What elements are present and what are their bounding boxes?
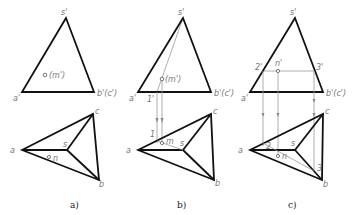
caption-b: b) — [177, 200, 186, 210]
label-m-prime: (m') — [49, 71, 65, 80]
edge-sc — [183, 114, 211, 150]
panel-b-top-view: a c s m 1 b — [126, 107, 220, 188]
label-s-prime: s' — [290, 8, 296, 17]
label-n: n — [282, 152, 287, 161]
label-s: s — [291, 139, 295, 148]
label-3: 3 — [317, 164, 322, 173]
label-b-prime-c-prime: b'(c') — [214, 89, 234, 98]
edge-sc — [295, 114, 323, 150]
arrow-down-icon — [313, 99, 316, 103]
front-view-triangle — [250, 18, 323, 92]
pyramid-projection-diagram: s' a' b'(c') (m') a c s n b a) s' a' b'(… — [0, 0, 355, 215]
label-3-prime: 3' — [316, 63, 323, 72]
label-a: a — [10, 146, 15, 155]
label-c: c — [95, 107, 100, 116]
arrow-down-icon — [161, 118, 164, 123]
label-a-prime: a' — [241, 94, 248, 103]
panel-b-front-view: s' a' b'(c') (m') 1' — [129, 8, 234, 104]
point-n-prime-marker — [276, 69, 279, 72]
edge-sb — [67, 150, 99, 180]
label-a: a — [238, 146, 243, 155]
front-view-triangle — [22, 18, 94, 92]
label-s-prime: s' — [61, 8, 67, 17]
panel-b-projectors — [156, 81, 164, 143]
panel-c-top-view: a c s n 2 3 b — [238, 107, 330, 189]
caption-c: c) — [288, 200, 297, 210]
label-1-prime: 1' — [147, 95, 154, 104]
arrow-down-icon — [277, 113, 280, 117]
label-b: b — [215, 179, 220, 188]
label-2-prime: 2' — [255, 63, 262, 72]
label-a-prime: a' — [129, 94, 136, 103]
panel-b: s' a' b'(c') (m') 1' a c s m 1 b b) — [126, 8, 234, 210]
panel-c: s' a' b'(c') n' 2' 3' a c s n — [238, 8, 346, 210]
point-m-prime-marker — [160, 77, 164, 81]
caption-a: a) — [70, 200, 79, 210]
edge-sb — [183, 150, 214, 180]
label-n: n — [53, 154, 58, 163]
panel-a-front-view: s' a' b'(c') (m') — [13, 8, 117, 103]
label-b: b — [99, 180, 104, 189]
arrow-down-icon — [313, 113, 316, 117]
label-s-prime: s' — [178, 8, 184, 17]
label-b-prime-c-prime: b'(c') — [97, 89, 117, 98]
label-a: a — [126, 146, 131, 155]
label-s: s — [63, 140, 67, 149]
panel-a: s' a' b'(c') (m') a c s n b a) — [10, 8, 117, 210]
arrow-down-icon — [156, 118, 159, 123]
label-2: 2 — [266, 142, 271, 151]
point-n-marker — [47, 155, 50, 158]
label-n-prime: n' — [275, 59, 282, 68]
label-s: s — [180, 139, 184, 148]
panel-c-front-view: s' a' b'(c') n' 2' 3' — [241, 8, 346, 103]
label-c: c — [213, 107, 218, 116]
label-b-prime-c-prime: b'(c') — [326, 89, 346, 98]
label-b: b — [323, 180, 328, 189]
point-m-prime-marker — [43, 73, 47, 77]
point-m-marker — [160, 141, 163, 144]
edge-sc — [67, 114, 93, 150]
label-1: 1 — [150, 130, 155, 139]
label-m: m — [166, 137, 174, 146]
point-n-marker — [276, 154, 279, 157]
label-a-prime: a' — [13, 94, 20, 103]
panel-a-top-view: a c s n b — [10, 107, 104, 189]
label-m-prime: (m') — [165, 75, 181, 84]
arrow-down-icon — [262, 113, 265, 117]
label-c: c — [325, 107, 330, 116]
